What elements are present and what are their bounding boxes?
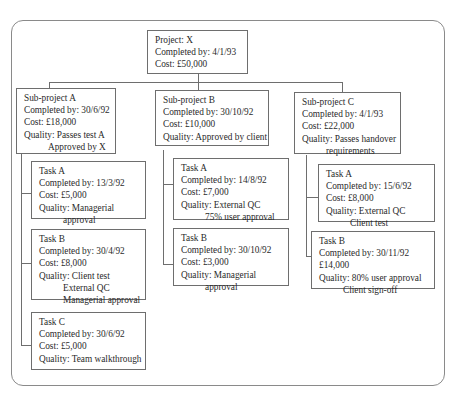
task-cost: £14,000	[319, 259, 427, 271]
connector-line	[198, 73, 199, 82]
task-cost: Cost: £5,000	[39, 189, 138, 201]
task-quality: Client sign-off	[319, 284, 427, 296]
project-cost: Cost: £50,000	[155, 58, 240, 70]
subproject-title: Sub-project C	[302, 96, 393, 108]
connector-line	[198, 82, 199, 90]
task-quality: External QC	[39, 282, 138, 294]
connector-line	[21, 345, 31, 346]
task-completed: Completed by: 13/3/92	[39, 177, 138, 189]
task-quality: 75% user approval	[181, 211, 281, 223]
task-title: Task B	[319, 235, 427, 247]
connector-line	[163, 264, 173, 265]
task-completed: Completed by: 30/10/92	[181, 244, 281, 256]
task-quality: Quality: Client test	[39, 270, 138, 282]
project-title: Project: X	[155, 34, 240, 46]
subproject-quality: Quality: Passes handover	[302, 133, 393, 145]
connector-line	[306, 197, 318, 198]
task-quality: Quality: External QC	[181, 199, 281, 211]
task-box: Task B Completed by: 30/10/92 Cost: £3,0…	[173, 228, 289, 286]
project-box: Project: X Completed by: 4/1/93 Cost: £5…	[147, 30, 248, 74]
task-title: Task A	[181, 162, 281, 174]
task-quality: Quality: Team walkthrough	[39, 353, 138, 365]
project-completed: Completed by: 4/1/93	[155, 46, 240, 58]
task-quality: Quality: External QC	[326, 205, 427, 217]
task-quality: approval	[39, 214, 138, 226]
connector-line	[49, 82, 342, 83]
subproject-completed: Completed by: 30/6/92	[24, 104, 108, 116]
task-completed: Completed by: 30/6/92	[39, 328, 138, 340]
subproject-b-box: Sub-project B Completed by: 30/10/92 Cos…	[155, 90, 269, 146]
connector-line	[163, 150, 164, 264]
task-completed: Completed by: 30/11/92	[319, 247, 427, 259]
task-quality: Quality: 80% user approval	[319, 272, 427, 284]
task-quality: Quality: Managerial	[181, 269, 281, 281]
subproject-quality: Quality: Passes test A	[24, 129, 108, 141]
task-quality: approval	[181, 281, 281, 293]
task-box: Task B Completed by: 30/4/92 Cost: £8,00…	[31, 229, 146, 300]
task-box: Task A Completed by: 13/3/92 Cost: £5,00…	[31, 161, 146, 219]
subproject-cost: Cost: £10,000	[163, 118, 261, 130]
task-quality: Client test	[326, 217, 427, 229]
connector-line	[21, 193, 31, 194]
task-title: Task A	[39, 165, 138, 177]
connector-line	[163, 184, 173, 185]
subproject-c-box: Sub-project C Completed by: 4/1/93 Cost:…	[294, 92, 401, 154]
task-quality: Quality: Managerial	[39, 202, 138, 214]
subproject-quality: requirements	[302, 145, 393, 157]
task-cost: Cost: £3,000	[181, 256, 281, 268]
connector-line	[21, 154, 22, 346]
subproject-completed: Completed by: 4/1/93	[302, 108, 393, 120]
task-cost: Cost: £8,000	[326, 192, 427, 204]
task-quality: Managerial approval	[39, 294, 138, 306]
task-cost: Cost: £5,000	[39, 340, 138, 352]
task-box: Task B Completed by: 30/11/92 £14,000 Qu…	[311, 231, 435, 289]
subproject-cost: Cost: £18,000	[24, 116, 108, 128]
task-box: Task C Completed by: 30/6/92 Cost: £5,00…	[31, 312, 146, 370]
subproject-quality: Quality: Approved by client	[163, 131, 261, 143]
subproject-quality: Approved by X	[24, 141, 108, 153]
subproject-cost: Cost: £22,000	[302, 120, 393, 132]
subproject-title: Sub-project A	[24, 92, 108, 104]
task-box: Task A Completed by: 14/8/92 Cost: £7,00…	[173, 158, 289, 220]
subproject-title: Sub-project B	[163, 94, 261, 106]
connector-line	[21, 263, 31, 264]
task-completed: Completed by: 15/6/92	[326, 180, 427, 192]
task-cost: Cost: £8,000	[39, 257, 138, 269]
task-box: Task A Completed by: 15/6/92 Cost: £8,00…	[318, 164, 435, 222]
task-cost: Cost: £7,000	[181, 186, 281, 198]
task-title: Task C	[39, 316, 138, 328]
task-completed: Completed by: 14/8/92	[181, 174, 281, 186]
task-title: Task A	[326, 168, 427, 180]
subproject-a-box: Sub-project A Completed by: 30/6/92 Cost…	[16, 88, 116, 154]
connector-line	[306, 155, 307, 256]
task-completed: Completed by: 30/4/92	[39, 245, 138, 257]
task-title: Task B	[39, 233, 138, 245]
task-title: Task B	[181, 232, 281, 244]
subproject-completed: Completed by: 30/10/92	[163, 106, 261, 118]
